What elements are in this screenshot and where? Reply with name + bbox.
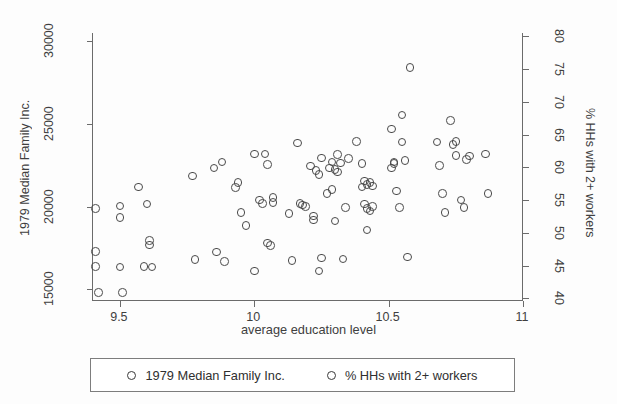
y-axis-right-tick (523, 233, 529, 234)
data-point (285, 209, 294, 218)
y-axis-right-tick (523, 200, 529, 201)
data-point (250, 150, 259, 159)
y-axis-right-tick (523, 69, 529, 70)
data-point (387, 125, 396, 134)
data-point (401, 156, 410, 165)
data-point (191, 255, 200, 264)
data-point (116, 202, 125, 211)
data-point (220, 257, 229, 266)
data-point (446, 116, 455, 125)
x-axis-tick (120, 301, 121, 307)
open-circle-marker-icon (327, 371, 336, 380)
data-point (91, 262, 100, 271)
data-point (481, 150, 490, 159)
data-point (250, 267, 259, 276)
data-point (118, 288, 127, 297)
data-point (269, 198, 278, 207)
data-point (465, 152, 474, 161)
data-point (237, 208, 246, 217)
data-point (317, 254, 326, 263)
scatter-chart-figure: 1979 Median Family Inc. % HHs with 2+ wo… (0, 0, 617, 404)
data-point (315, 170, 324, 179)
y-axis-left-tick-label: 30000 (42, 9, 56, 73)
data-point (333, 168, 342, 177)
y-axis-right-tick (523, 266, 529, 267)
data-point (398, 111, 407, 120)
data-point (258, 199, 267, 208)
legend-label: % HHs with 2+ workers (345, 368, 478, 383)
data-point (134, 183, 143, 192)
open-circle-marker-icon (127, 371, 136, 380)
y-axis-left-tick (87, 41, 93, 42)
data-point (91, 247, 100, 256)
data-point (344, 154, 353, 163)
data-point (395, 203, 404, 212)
data-point (116, 263, 125, 272)
data-point (352, 137, 361, 146)
y-axis-left-tick (87, 289, 93, 290)
data-point (460, 203, 469, 212)
data-point (266, 241, 275, 250)
y-axis-left-title: 1979 Median Family Inc. (18, 60, 32, 275)
data-point (403, 253, 412, 262)
x-axis-tick (389, 301, 390, 307)
data-point (315, 267, 324, 276)
data-point (317, 154, 326, 163)
data-point (363, 226, 372, 235)
y-axis-right-tick-label: 80 (552, 14, 566, 58)
data-point (438, 189, 447, 198)
data-point (435, 161, 444, 170)
data-point (341, 203, 350, 212)
data-point (263, 160, 272, 169)
data-point (116, 213, 125, 222)
data-point (145, 241, 154, 250)
data-point (433, 138, 442, 147)
data-point (293, 139, 302, 148)
x-axis-tick (254, 301, 255, 307)
data-point (398, 138, 407, 147)
legend-label: 1979 Median Family Inc. (145, 368, 284, 383)
data-point (358, 159, 367, 168)
y-axis-left-tick (87, 207, 93, 208)
chart-legend: 1979 Median Family Inc. % HHs with 2+ wo… (90, 358, 515, 392)
y-axis-left-tick-label: 15000 (42, 257, 56, 321)
data-point (392, 187, 401, 196)
data-point (406, 63, 415, 72)
y-axis-left-tick-label: 25000 (42, 92, 56, 156)
data-point (441, 208, 450, 217)
data-point (210, 164, 219, 173)
legend-item-median-family-inc[interactable]: 1979 Median Family Inc. (127, 368, 284, 383)
y-axis-right-tick (523, 298, 529, 299)
legend-item-hhs-2plus-workers[interactable]: % HHs with 2+ workers (327, 368, 478, 383)
y-axis-right-tick (523, 135, 529, 136)
data-point (333, 150, 342, 159)
data-point (328, 185, 337, 194)
data-point (261, 150, 270, 159)
data-point (91, 204, 100, 213)
y-axis-left-tick (87, 124, 93, 125)
data-points-layer (93, 33, 522, 300)
data-point (148, 263, 157, 272)
y-axis-left-tick-label: 20000 (42, 175, 56, 239)
data-point (218, 158, 227, 167)
y-axis-right-tick (523, 102, 529, 103)
data-point (301, 202, 310, 211)
data-point (484, 189, 493, 198)
data-point (143, 200, 152, 209)
data-point (234, 178, 243, 187)
data-point (452, 137, 461, 146)
y-axis-right-title: % HHs with 2+ workers (583, 60, 597, 285)
data-point (212, 248, 221, 257)
data-point (309, 216, 318, 225)
data-point (242, 221, 251, 230)
data-point (368, 182, 377, 191)
y-axis-right-spine (522, 33, 523, 301)
data-point (288, 256, 297, 265)
data-point (94, 288, 103, 297)
data-point (368, 202, 377, 211)
data-point (188, 172, 197, 181)
data-point (452, 151, 461, 160)
y-axis-right-tick (523, 36, 529, 37)
x-axis-tick (523, 301, 524, 307)
y-axis-right-tick (523, 167, 529, 168)
